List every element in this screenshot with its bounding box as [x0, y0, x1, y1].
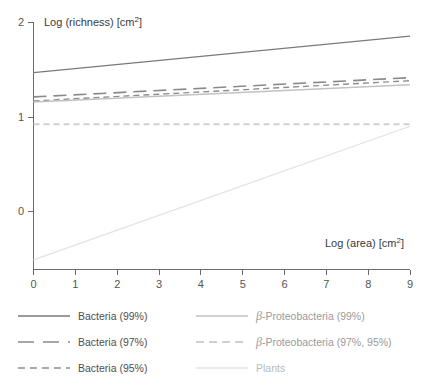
x-tick-label-9: 9 [407, 278, 413, 290]
legend-label-bacteria-95: Bacteria (95%) [78, 362, 147, 374]
legend-swatch-plants [196, 362, 248, 374]
legend-swatch-bacteria-99 [18, 310, 70, 322]
x-axis-title-main: Log (area) [cm [325, 237, 397, 249]
x-tick-label-2: 2 [114, 278, 120, 290]
legend-label-bacteria-99: Bacteria (99%) [78, 310, 147, 322]
y-axis-title-close: ] [139, 16, 142, 28]
legend-item-betaproteobacteria-99[interactable]: β-Proteobacteria (99%) [196, 306, 425, 326]
legend-item-bacteria-97[interactable]: Bacteria (97%) [18, 332, 198, 352]
legend-item-betaproteobacteria-97-95[interactable]: β-Proteobacteria (97%, 95%) [196, 332, 425, 352]
y-axis-title-main: Log (richness) [cm [44, 16, 134, 28]
legend-swatch-bacteria-95 [18, 362, 70, 374]
x-axis-title-close: ] [401, 237, 404, 249]
legend-label-plants: Plants [256, 362, 285, 374]
legend-swatch-betaproteobacteria-99 [196, 310, 248, 322]
y-tick-label-2: 2 [18, 16, 24, 28]
legend-label-betaproteobacteria-99: β-Proteobacteria (99%) [256, 310, 365, 322]
series-line-2 [34, 81, 411, 101]
legend-swatch-bacteria-97 [18, 336, 70, 348]
x-tick-label-7: 7 [323, 278, 329, 290]
legend-label-betaproteobacteria-97-95-text: -Proteobacteria (97%, 95%) [262, 336, 392, 348]
legend-item-bacteria-99[interactable]: Bacteria (99%) [18, 306, 198, 326]
line-chart-svg: 2 1 0 0 1 2 3 4 5 6 7 8 9 [0, 0, 425, 300]
x-tick-label-5: 5 [240, 278, 246, 290]
legend-swatch-betaproteobacteria-97-95 [196, 336, 248, 348]
series-lines [34, 36, 411, 260]
legend-label-betaproteobacteria-99-text: -Proteobacteria (99%) [262, 310, 365, 322]
legend-item-plants[interactable]: Plants [196, 358, 425, 378]
legend-label-betaproteobacteria-97-95: β-Proteobacteria (97%, 95%) [256, 336, 392, 348]
x-tick-label-1: 1 [72, 278, 78, 290]
x-tick-label-6: 6 [281, 278, 287, 290]
x-tick-label-3: 3 [156, 278, 162, 290]
chart-legend: Bacteria (99%) Bacteria (97%) Bacteria (… [0, 300, 425, 368]
plot-area: 2 1 0 0 1 2 3 4 5 6 7 8 9 [0, 0, 425, 300]
x-tick-label-8: 8 [365, 278, 371, 290]
legend-column-right: β-Proteobacteria (99%) β-Proteobacteria … [196, 306, 425, 378]
legend-column-left: Bacteria (99%) Bacteria (97%) Bacteria (… [18, 306, 198, 378]
y-tick-label-1: 1 [18, 111, 24, 123]
y-tick-label-0: 0 [18, 205, 24, 217]
series-line-0 [34, 36, 411, 72]
legend-label-bacteria-97: Bacteria (97%) [78, 336, 147, 348]
legend-item-bacteria-95[interactable]: Bacteria (95%) [18, 358, 198, 378]
y-axis-title: Log (richness) [cm2] [44, 15, 142, 28]
x-axis-title: Log (area) [cm2] [325, 236, 404, 249]
x-tick-label-4: 4 [198, 278, 204, 290]
x-tick-label-0: 0 [30, 278, 36, 290]
